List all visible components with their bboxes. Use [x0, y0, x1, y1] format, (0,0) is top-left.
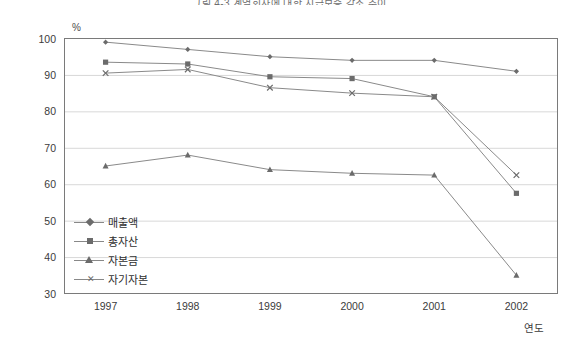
- legend-label: 자본금: [104, 252, 138, 268]
- data-point-cross: [514, 172, 520, 178]
- y-tick-label: 60: [22, 178, 56, 190]
- legend-item-maechulaek: 매출액: [74, 212, 170, 231]
- legend-item-jagijabon: ✕ 자기자본: [74, 269, 170, 288]
- y-tick-label: 50: [22, 215, 56, 227]
- y-tick-label: 100: [22, 33, 56, 45]
- chart-legend: 매출액 총자산 자본금 ✕ 자기자본: [74, 212, 170, 288]
- x-axis-title: 연도: [524, 320, 544, 335]
- data-point-diamond: [432, 58, 437, 63]
- data-point-diamond: [514, 69, 519, 74]
- x-tick-label: 2000: [322, 300, 382, 312]
- data-point-diamond: [267, 54, 272, 59]
- data-point-square: [267, 74, 272, 79]
- y-tick-label: 90: [22, 69, 56, 81]
- legend-item-chongjasan: 총자산: [74, 231, 170, 250]
- series-line: [106, 69, 517, 175]
- data-point-square: [185, 61, 190, 66]
- legend-marker-cross-icon: ✕: [74, 273, 104, 285]
- y-tick-label: 40: [22, 251, 56, 263]
- legend-label: 자기자본: [104, 271, 148, 287]
- series-line: [106, 62, 517, 193]
- series-line: [106, 42, 517, 71]
- legend-marker-square-icon: [74, 235, 104, 247]
- series-자기자본: [103, 67, 519, 178]
- y-tick-label: 70: [22, 142, 56, 154]
- x-tick-label: 1998: [158, 300, 218, 312]
- y-tick-label: 80: [22, 105, 56, 117]
- x-tick-label: 1999: [240, 300, 300, 312]
- legend-item-jabongeum: 자본금: [74, 250, 170, 269]
- data-point-square: [514, 191, 519, 196]
- series-총자산: [103, 60, 519, 196]
- legend-marker-diamond-icon: [74, 216, 104, 228]
- data-point-diamond: [185, 47, 190, 52]
- legend-marker-triangle-icon: [74, 254, 104, 266]
- series-매출액: [103, 40, 519, 74]
- legend-label: 총자산: [104, 233, 138, 249]
- x-tick-label: 2002: [486, 300, 546, 312]
- legend-label: 매출액: [104, 214, 138, 230]
- data-point-square: [349, 76, 354, 81]
- data-point-triangle: [185, 152, 191, 158]
- x-tick-label: 1997: [76, 300, 136, 312]
- plot-area: [0, 0, 579, 345]
- chart-figure: 그림 4-3 계열회사에 대한 지급보증 감소 추이 % 10090807060…: [0, 0, 579, 345]
- data-point-diamond: [349, 58, 354, 63]
- x-tick-label: 2001: [404, 300, 464, 312]
- data-point-square: [103, 60, 108, 65]
- y-tick-label: 30: [22, 288, 56, 300]
- data-point-diamond: [103, 40, 108, 45]
